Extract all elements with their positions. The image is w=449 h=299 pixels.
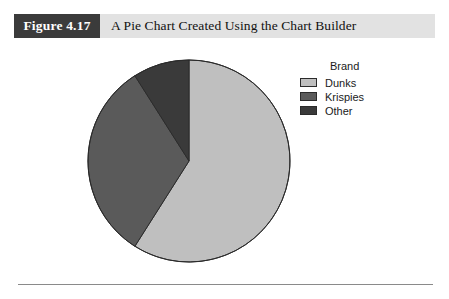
legend-title: Brand — [300, 60, 424, 72]
chart-area: Brand Dunks Krispies Other — [14, 44, 435, 272]
legend-label-dunks: Dunks — [325, 77, 356, 89]
legend-swatch-icon-dunks — [300, 78, 317, 87]
chart-legend: Brand Dunks Krispies Other — [300, 60, 424, 117]
figure-number-badge: Figure 4.17 — [14, 14, 100, 38]
legend-swatch-icon-krispies — [300, 92, 317, 101]
legend-item-dunks[interactable]: Dunks — [300, 76, 424, 89]
pie-chart-svg — [86, 58, 292, 264]
legend-rows: Dunks Krispies Other — [300, 76, 424, 117]
legend-item-other[interactable]: Other — [300, 104, 424, 117]
figure-caption-bar: Figure 4.17 A Pie Chart Created Using th… — [14, 14, 435, 38]
pie-slices — [88, 60, 290, 262]
figure-container: Figure 4.17 A Pie Chart Created Using th… — [0, 0, 449, 299]
legend-label-krispies: Krispies — [325, 91, 364, 103]
pie-chart — [86, 58, 292, 264]
legend-item-krispies[interactable]: Krispies — [300, 90, 424, 103]
figure-caption-text: A Pie Chart Created Using the Chart Buil… — [100, 14, 435, 38]
figure-bottom-rule — [18, 284, 433, 285]
legend-label-other: Other — [325, 105, 353, 117]
legend-swatch-icon-other — [300, 106, 317, 115]
